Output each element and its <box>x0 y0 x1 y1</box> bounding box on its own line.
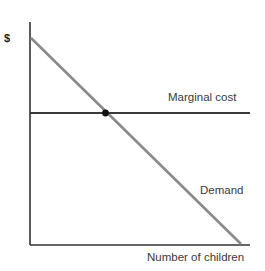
chart-canvas <box>0 0 265 271</box>
equilibrium-point-dot <box>102 110 109 117</box>
economics-demand-marginal-cost-chart: $ Marginal cost Demand Number of childre… <box>0 0 265 271</box>
x-axis-label: Number of children <box>147 252 244 264</box>
y-axis-label: $ <box>4 33 10 44</box>
demand-label: Demand <box>200 185 243 197</box>
marginal-cost-label: Marginal cost <box>168 92 236 104</box>
demand-curve-line <box>31 38 241 244</box>
